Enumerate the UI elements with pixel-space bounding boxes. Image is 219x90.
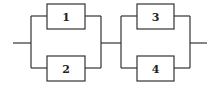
- block-4: 4: [137, 56, 174, 81]
- block-2: 2: [47, 56, 85, 81]
- reliability-block-diagram: 1 2 3 4: [0, 0, 219, 90]
- block-1: 1: [47, 4, 85, 29]
- block-3-label: 3: [152, 11, 160, 24]
- block-3: 3: [137, 4, 174, 29]
- block-2-label: 2: [62, 63, 70, 76]
- block-1-label: 1: [62, 11, 70, 24]
- block-4-label: 4: [152, 63, 160, 76]
